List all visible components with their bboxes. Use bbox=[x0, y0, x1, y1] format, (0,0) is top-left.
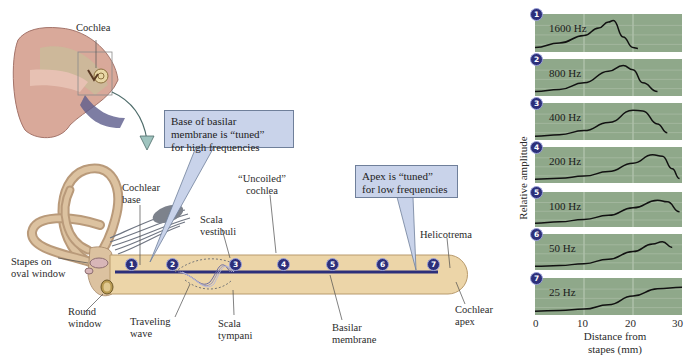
amplitude-panel: 400 Hz bbox=[535, 103, 682, 140]
basilar-membrane-label: Basilar membrane bbox=[332, 322, 376, 346]
panel-marker: 1 bbox=[530, 8, 543, 21]
amplitude-panel: 25 Hz bbox=[535, 278, 682, 315]
ear-illustration bbox=[13, 28, 125, 138]
marker-7: 7 bbox=[427, 258, 440, 271]
cochlear-apex-label: Cochlear apex bbox=[455, 304, 493, 328]
callout-line: membrane is “tuned” bbox=[171, 128, 287, 141]
label-line: vestibuli bbox=[200, 226, 236, 238]
cochlear-base-label: Cochlear base bbox=[122, 182, 160, 206]
panel-marker: 6 bbox=[530, 228, 543, 241]
label-line: Cochlear bbox=[122, 182, 160, 194]
frequency-label: 25 Hz bbox=[549, 286, 576, 298]
marker-2: 2 bbox=[166, 258, 179, 271]
label-line: Scala bbox=[218, 318, 252, 330]
label-line: “Uncoiled” bbox=[238, 173, 286, 185]
callout-line: Apex is “tuned” bbox=[362, 170, 451, 183]
label-line: Cochlear bbox=[455, 304, 493, 316]
amplitude-panel: 100 Hz bbox=[535, 192, 682, 227]
label-line: Basilar bbox=[332, 322, 376, 334]
label-line: base bbox=[122, 194, 160, 206]
uncoiled-cochlea-label: “Uncoiled” cochlea bbox=[238, 173, 286, 197]
frequency-label: 200 Hz bbox=[549, 155, 581, 167]
panel-marker: 2 bbox=[530, 53, 543, 66]
scala-vestibuli-label: Scala vestibuli bbox=[200, 214, 236, 238]
label-line: membrane bbox=[332, 334, 376, 346]
marker-6: 6 bbox=[376, 258, 389, 271]
amplitude-panel: 50 Hz bbox=[535, 234, 682, 270]
callout-line: for high frequencies bbox=[171, 141, 287, 154]
amplitude-panel: 200 Hz bbox=[535, 147, 682, 183]
x-tick: 20 bbox=[625, 317, 636, 329]
round-window-label: Round window bbox=[68, 306, 102, 330]
x-axis-label: Distance from stapes (mm) bbox=[570, 330, 660, 356]
frequency-label: 400 Hz bbox=[549, 111, 581, 123]
scala-tympani-label: Scala tympani bbox=[218, 318, 252, 342]
frequency-label: 1600 Hz bbox=[549, 22, 587, 34]
label-line: Round bbox=[68, 306, 102, 318]
label-line: Scala bbox=[200, 214, 236, 226]
amplitude-panel: 1600 Hz bbox=[535, 14, 682, 52]
stapes-label: Stapes on oval window bbox=[11, 256, 66, 280]
marker-1: 1 bbox=[125, 258, 138, 271]
panel-marker: 7 bbox=[530, 272, 543, 285]
marker-3: 3 bbox=[229, 258, 242, 271]
cochlea-label: Cochlea bbox=[76, 22, 110, 34]
label-line: wave bbox=[130, 328, 170, 340]
x-tick: 10 bbox=[577, 317, 588, 329]
panel-marker: 3 bbox=[530, 97, 543, 110]
frequency-label: 100 Hz bbox=[549, 200, 581, 212]
panel-marker: 5 bbox=[530, 186, 543, 199]
apex-tuned-callout: Apex is “tuned” for low frequencies bbox=[355, 165, 458, 198]
y-axis-label: Relative amplitude bbox=[517, 123, 529, 233]
helicotrema-label: Helicotrema bbox=[420, 229, 472, 241]
panel-marker: 4 bbox=[530, 141, 543, 154]
marker-5: 5 bbox=[326, 258, 339, 271]
frequency-label: 50 Hz bbox=[549, 242, 576, 254]
traveling-wave-label: Traveling wave bbox=[130, 316, 170, 340]
callout-line: Base of basilar bbox=[171, 115, 287, 128]
label-line: cochlea bbox=[238, 185, 286, 197]
amplitude-panel: 800 Hz bbox=[535, 59, 682, 96]
x-tick: 30 bbox=[672, 317, 683, 329]
label-line: tympani bbox=[218, 330, 252, 342]
x-axis-label-line: stapes (mm) bbox=[570, 343, 660, 356]
base-tuned-callout: Base of basilar membrane is “tuned” for … bbox=[164, 110, 294, 148]
callout-line: for low frequencies bbox=[362, 183, 451, 196]
label-line: oval window bbox=[11, 268, 66, 280]
x-axis-label-line: Distance from bbox=[570, 330, 660, 343]
frequency-label: 800 Hz bbox=[549, 67, 581, 79]
label-line: apex bbox=[455, 316, 493, 328]
marker-4: 4 bbox=[277, 258, 290, 271]
label-line: window bbox=[68, 318, 102, 330]
label-line: Stapes on bbox=[11, 256, 66, 268]
label-line: Traveling bbox=[130, 316, 170, 328]
x-tick: 0 bbox=[533, 317, 539, 329]
